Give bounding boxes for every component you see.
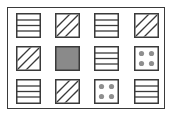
four-dots-icon — [94, 79, 119, 104]
tile-horizontal-stripes — [134, 79, 159, 104]
horizontal-stripes-icon — [16, 79, 41, 104]
tile-diagonal-stripes — [55, 13, 80, 38]
diagonal-stripes-icon — [55, 79, 80, 104]
diagonal-stripes-icon — [134, 13, 159, 38]
tile-horizontal-stripes — [16, 13, 41, 38]
horizontal-stripes-icon — [94, 46, 119, 71]
tile-four-dots — [134, 46, 159, 71]
tile-diagonal-stripes — [134, 13, 159, 38]
horizontal-stripes-icon — [94, 13, 119, 38]
tile-diagonal-stripes — [16, 46, 41, 71]
tile-horizontal-stripes — [94, 46, 119, 71]
horizontal-stripes-icon — [16, 13, 41, 38]
tile-horizontal-stripes — [16, 79, 41, 104]
diagonal-stripes-icon — [55, 13, 80, 38]
solid-gray-icon — [55, 46, 80, 71]
tile-four-dots — [94, 79, 119, 104]
horizontal-stripes-icon — [134, 79, 159, 104]
tile-diagonal-stripes — [55, 79, 80, 104]
four-dots-icon — [134, 46, 159, 71]
tile-horizontal-stripes — [94, 13, 119, 38]
diagonal-stripes-icon — [16, 46, 41, 71]
tile-solid-gray — [55, 46, 80, 71]
